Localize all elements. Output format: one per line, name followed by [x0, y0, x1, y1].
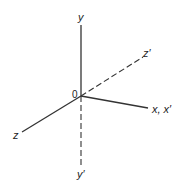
y-label: y	[77, 11, 85, 23]
z-axis	[22, 96, 81, 132]
y-prime-label: y′	[76, 168, 86, 180]
x-label: x, x′	[151, 103, 172, 115]
z-prime-label: z′	[142, 47, 152, 59]
origin-label: 0	[72, 89, 78, 100]
z-prime-axis	[81, 57, 143, 96]
z-label: z	[12, 129, 19, 141]
x-axis	[81, 96, 148, 108]
axes-diagram: y y′ x, x′ z z′ 0	[0, 0, 185, 191]
